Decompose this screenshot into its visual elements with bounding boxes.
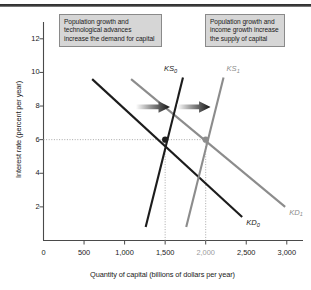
y-tick-label: 4 xyxy=(27,168,40,177)
y-axis-ticks xyxy=(40,39,44,207)
curve-ks0 xyxy=(146,77,183,227)
y-axis-title: Interest rate (percent per year) xyxy=(14,70,23,190)
x-tick-label: 3,000 xyxy=(272,248,302,257)
curve-label-kd0: KD0 xyxy=(246,218,260,227)
shift-arrows xyxy=(136,101,211,113)
x-tick-label: 2,500 xyxy=(231,248,261,257)
curve-label-text: KS xyxy=(164,64,174,73)
supply-shift-arrow xyxy=(177,101,210,113)
x-tick-label: 1,000 xyxy=(110,248,140,257)
curve-label-ks1: KS1 xyxy=(227,64,240,73)
initial-equilibrium xyxy=(162,137,168,143)
chart-axes xyxy=(40,22,304,245)
curve-label-ks0: KS0 xyxy=(164,64,177,73)
x-tick-label: 2,000 xyxy=(191,248,221,257)
new-equilibrium xyxy=(203,137,209,143)
y-tick-label: 6 xyxy=(27,135,40,144)
curve-label-subscript: 1 xyxy=(300,211,303,217)
x-tick-label: 1,500 xyxy=(150,248,180,257)
y-tick-label: 2 xyxy=(27,202,40,211)
supply-shift-callout: Population growth and income growth incr… xyxy=(205,14,285,47)
demand-shift-arrow xyxy=(136,101,170,113)
curve-label-text: KS xyxy=(227,64,237,73)
chart-curves xyxy=(92,77,285,227)
x-tick-label: 500 xyxy=(69,248,99,257)
capital-market-figure: Population growth and technological adva… xyxy=(0,0,311,290)
demand-shift-callout: Population growth and technological adva… xyxy=(59,14,162,47)
curve-label-text: KD xyxy=(246,218,257,227)
curve-label-subscript: 0 xyxy=(174,68,177,74)
x-axis-title: Quantity of capital (billions of dollars… xyxy=(90,270,235,279)
curve-label-kd1: KD1 xyxy=(289,208,303,217)
curve-label-subscript: 1 xyxy=(237,68,240,74)
reference-lines xyxy=(44,140,206,241)
y-tick-label: 12 xyxy=(27,34,40,43)
curve-label-text: KD xyxy=(289,208,300,217)
y-tick-label: 8 xyxy=(27,101,40,110)
x-tick-label: 0 xyxy=(29,248,59,257)
x-axis-ticks xyxy=(84,241,287,245)
curve-label-subscript: 0 xyxy=(257,222,260,228)
curve-kd0 xyxy=(92,79,242,217)
y-tick-label: 10 xyxy=(27,67,40,76)
